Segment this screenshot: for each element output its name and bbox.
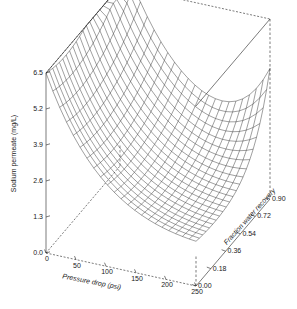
z-tick-label: 5.2 (33, 105, 43, 112)
x-tick-label: 0 (45, 255, 49, 262)
x-tick-label: 250 (191, 288, 203, 295)
x-tick-label: 200 (161, 281, 173, 288)
surface-plot-figure: 0.01.32.63.95.26.50501001502002500.000.1… (0, 0, 297, 309)
y-tick-label: 0.90 (272, 195, 286, 202)
y-tick-label: 0.72 (257, 212, 271, 219)
y-tick-label: 0.36 (228, 247, 242, 254)
x-tick-label: 100 (101, 268, 113, 275)
y-tick-label: 0.54 (242, 230, 256, 237)
x-tick-label: 150 (131, 275, 143, 282)
surface-plot-canvas (0, 0, 297, 309)
z-axis-title: Sodium permeate (mg/L) (10, 94, 17, 214)
z-tick-label: 0.0 (33, 249, 43, 256)
x-tick-label: 50 (73, 262, 81, 269)
z-tick-label: 3.9 (33, 141, 43, 148)
axes-box-front-edges (46, 19, 270, 286)
z-tick-label: 1.3 (33, 213, 43, 220)
z-tick-label: 6.5 (33, 69, 43, 76)
y-tick-label: 0.00 (198, 282, 212, 289)
y-tick-label: 0.18 (213, 265, 227, 272)
response-surface-wireframe (46, 0, 270, 241)
z-tick-label: 2.6 (33, 177, 43, 184)
